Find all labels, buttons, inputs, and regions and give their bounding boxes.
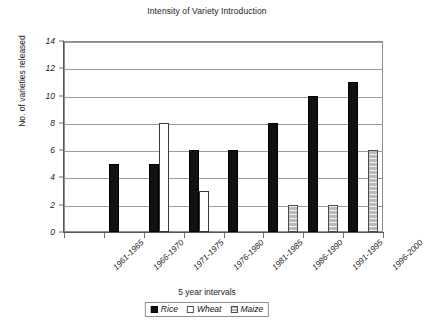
legend-label: Rice — [161, 304, 178, 314]
bar-maize — [328, 205, 338, 232]
bar-rice — [109, 164, 119, 232]
legend-item: Wheat — [187, 304, 222, 314]
legend-item: Maize — [230, 304, 263, 314]
y-tick-label: 12 — [46, 63, 55, 73]
x-tick-label: 1986-1990 — [310, 238, 344, 272]
x-tick-mark — [383, 233, 384, 238]
y-axis-tick-labels: 02468101214 — [0, 41, 64, 232]
bar-group — [343, 41, 383, 232]
bar-group — [224, 41, 264, 232]
bar-group — [64, 41, 104, 232]
x-tick-label: 1996-2000 — [390, 238, 424, 272]
bar-group — [144, 41, 184, 232]
bar-rice — [308, 96, 318, 232]
x-tick-label: 1961-1965 — [111, 238, 145, 272]
wheat-swatch-icon — [187, 306, 194, 313]
bar-maize — [288, 205, 298, 232]
y-tick-label: 6 — [50, 145, 55, 155]
x-tick-label: 1976-1980 — [231, 238, 265, 272]
legend-label: Wheat — [197, 304, 222, 314]
y-tick-label: 2 — [50, 200, 55, 210]
chart-legend: RiceWheatMaize — [145, 302, 269, 317]
maize-swatch-icon — [230, 306, 237, 313]
chart-title: Intensity of Variety Introduction — [0, 6, 414, 16]
x-axis-title: 5 year intervals — [0, 287, 414, 297]
y-tick-label: 4 — [50, 172, 55, 182]
bar-group — [104, 41, 144, 232]
x-tick-label: 1981-1985 — [270, 238, 304, 272]
bar-wheat — [199, 191, 209, 232]
bar-rice — [149, 164, 159, 232]
bar-group — [184, 41, 224, 232]
y-tick-label: 0 — [50, 227, 55, 237]
y-tick-label: 14 — [46, 36, 55, 46]
bar-rice — [348, 82, 358, 232]
x-axis-tick-labels: 1961-19651966-19701971-19751976-19801981… — [64, 238, 383, 294]
legend-label: Maize — [240, 304, 263, 314]
bar-rice — [228, 150, 238, 232]
x-tick-label: 1966-1970 — [151, 238, 185, 272]
bar-group — [303, 41, 343, 232]
bar-wheat — [159, 123, 169, 232]
y-tick-label: 8 — [50, 118, 55, 128]
group-separator — [382, 41, 383, 232]
rice-swatch-icon — [151, 306, 158, 313]
bars-layer — [64, 41, 383, 232]
x-tick-label: 1991-1995 — [350, 238, 384, 272]
legend-item: Rice — [151, 304, 178, 314]
bar-rice — [268, 123, 278, 232]
bar-maize — [368, 150, 378, 232]
y-tick-label: 10 — [46, 91, 55, 101]
bar-group — [263, 41, 303, 232]
bar-rice — [189, 150, 199, 232]
x-tick-label: 1971-1975 — [191, 238, 225, 272]
